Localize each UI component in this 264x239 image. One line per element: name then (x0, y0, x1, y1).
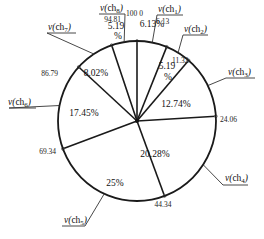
slice-percentage-label: 8.02% (84, 68, 109, 78)
boundary-label: 44.34 (155, 200, 172, 209)
pie-chart: 100 06.1311.3224.0644.3469.3486.7994.81 … (0, 0, 264, 239)
slice-percentage-label: 25% (106, 178, 124, 188)
category-label-vch2: v(ch2) (184, 24, 207, 36)
slice-percentage-label: 12.74% (161, 99, 190, 109)
slice-boundary-line (63, 121, 137, 149)
leader-line (47, 33, 94, 54)
slice-percentage-label: 5.19 (159, 61, 176, 71)
boundary-label: 100 0 (126, 9, 143, 18)
category-label-vch1: v(ch1) (158, 4, 181, 16)
slice-percentage-label: 17.45% (69, 108, 98, 118)
slice-percentage-label: 5.19 (108, 21, 125, 31)
slice-percentage-label: % (114, 31, 122, 41)
slice-percentage-label: % (164, 72, 172, 82)
category-label-vch8: v(ch8) (100, 3, 123, 15)
boundary-label: 69.34 (39, 147, 56, 156)
category-label-vch4: v(ch4) (225, 173, 248, 185)
category-label-vch5: v(ch5) (64, 215, 87, 227)
slice-percentage-label: 20.28% (140, 149, 169, 159)
leader-line (178, 35, 208, 53)
boundary-label: 24.06 (220, 115, 237, 124)
center-dot (135, 119, 139, 123)
pie-slices (62, 40, 218, 198)
slice-boundary-line (137, 116, 216, 121)
slice-boundary-line (137, 47, 167, 121)
boundary-label: 86.79 (41, 69, 58, 78)
category-label-vch3: v(ch3) (228, 67, 251, 79)
slice-percentage-label: 6.13% (140, 19, 165, 29)
percentage-labels: 6.13%5.19%12.74%20.28%25%17.45%8.02%5.19… (69, 19, 190, 188)
leader-line (208, 78, 255, 86)
category-label-vch7: v(ch7) (48, 22, 71, 34)
